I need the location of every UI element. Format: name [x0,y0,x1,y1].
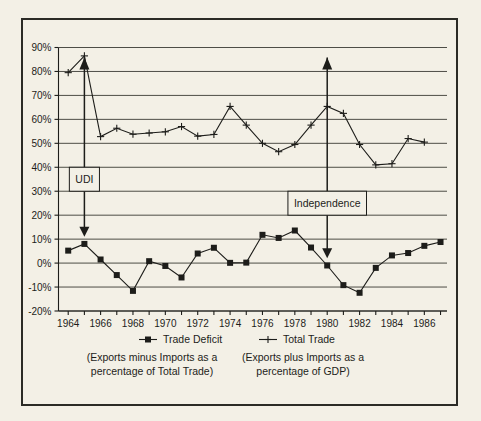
data-point-marker [81,241,87,247]
y-tick-label: 70% [31,90,51,101]
data-point-marker [179,274,185,280]
annotation-label: UDI [75,173,93,185]
data-point-marker [146,258,152,264]
x-axis: 1964196619681970197219741976197819801982… [57,311,447,329]
data-series [65,52,444,296]
data-point-marker [292,228,298,234]
x-tick-label: 1984 [381,318,404,329]
x-tick-label: 1974 [219,318,242,329]
annotations: UDIIndependence [69,58,366,259]
x-tick-label: 1986 [413,318,436,329]
data-point-marker [130,288,136,294]
data-point-marker [114,272,120,278]
data-point-marker [389,252,395,258]
annotation-arrow-head-up [322,58,332,70]
annotation-arrow-head [322,248,332,258]
x-tick-label: 1968 [122,318,145,329]
trade-line-chart: 90%80%70%60%50%40%30%20%10%0%-10%-20% 19… [0,0,481,421]
y-tick-label: 60% [31,114,51,125]
chart-captions: (Exports minus Imports as apercentage of… [87,351,364,377]
x-tick-label: 1972 [187,318,210,329]
y-tick-label: 30% [31,186,51,197]
annotation-arrow-head [79,227,89,237]
annotation-label: Independence [294,197,361,209]
data-point-marker [340,282,346,288]
data-point-marker [357,290,363,296]
data-point-marker [243,260,249,266]
data-point-marker [211,245,217,251]
series-line-trade-deficit [68,231,440,293]
y-tick-label: 50% [31,138,51,149]
y-tick-label: 40% [31,162,51,173]
x-tick-label: 1964 [57,318,80,329]
y-tick-label: -10% [28,282,51,293]
data-point-marker [438,239,444,245]
chart-page: 90%80%70%60%50%40%30%20%10%0%-10%-20% 19… [0,0,481,421]
data-point-marker [145,337,151,343]
x-tick-label: 1976 [251,318,274,329]
x-tick-label: 1982 [348,318,371,329]
y-tick-label: 0% [37,258,52,269]
data-point-marker [308,245,314,251]
data-point-marker [259,232,265,238]
series-line-total-trade [68,56,424,165]
y-axis: 90%80%70%60%50%40%30%20%10%0%-10%-20% [28,42,58,317]
y-tick-label: 80% [31,66,51,77]
data-point-marker [65,248,71,254]
caption-line: (Exports plus Imports as a [242,351,364,363]
data-point-marker [405,250,411,256]
x-tick-label: 1970 [154,318,177,329]
data-point-marker [162,263,168,269]
y-tick-label: 90% [31,42,51,53]
legend-label: Total Trade [283,333,335,345]
y-tick-label: -20% [28,306,51,317]
data-point-marker [195,251,201,257]
data-point-marker [98,256,104,262]
data-point-marker [421,243,427,249]
data-point-marker [324,262,330,268]
caption-line: percentage of GDP) [256,365,349,377]
caption-line: (Exports minus Imports as a [87,351,218,363]
x-tick-label: 1966 [89,318,112,329]
legend-label: Trade Deficit [163,333,222,345]
x-tick-label: 1980 [316,318,339,329]
data-point-marker [373,265,379,271]
chart-legend: Trade DeficitTotal Trade [139,333,335,345]
y-tick-label: 10% [31,234,51,245]
gridlines [59,48,448,312]
data-point-marker [276,235,282,241]
data-point-marker [227,260,233,266]
x-tick-label: 1978 [284,318,307,329]
caption-line: percentage of Total Trade) [91,365,213,377]
y-tick-label: 20% [31,210,51,221]
